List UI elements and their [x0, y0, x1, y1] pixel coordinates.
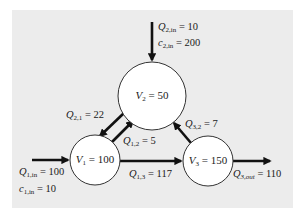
node-v1-label: V1 = 100	[76, 154, 114, 167]
conc-label-c1-in: c1,in = 10	[19, 184, 56, 196]
equals-sign: =	[89, 153, 95, 165]
conc-value: 10	[46, 183, 57, 194]
flow-label-q3-out: Q3,out = 110	[233, 169, 281, 181]
flow-label-q1-in: Q1,in = 100	[19, 167, 64, 179]
flow-symbol: Q	[129, 168, 137, 179]
flow-subscript: 1,3	[137, 173, 146, 181]
conc-subscript: 2,in	[163, 42, 174, 50]
node-subscript: 1	[83, 159, 87, 167]
conc-subscript: 1,in	[24, 188, 35, 196]
node-symbol: V	[76, 153, 83, 165]
flow-symbol: Q	[185, 118, 193, 129]
node-v3-label: V3 = 150	[189, 155, 227, 168]
node-volume-value: 150	[211, 154, 228, 166]
flow-value: 5	[151, 135, 156, 146]
equals-sign: =	[149, 89, 155, 101]
flow-label-q2-1: Q2,1 = 22	[66, 110, 104, 122]
flow-symbol: Q	[233, 168, 241, 179]
conc-value: 200	[185, 37, 201, 48]
flow-label-q1-2: Q1,2 = 5	[123, 136, 156, 148]
flow-subscript: 3,2	[193, 123, 202, 131]
flow-symbol: Q	[123, 135, 131, 146]
node-subscript: 2	[142, 95, 146, 103]
flow-symbol: Q	[19, 166, 27, 177]
conc-label-c2-in: c2,in = 200	[158, 38, 200, 50]
flow-value: 7	[213, 118, 218, 129]
flow-subscript: 3,out	[241, 173, 255, 181]
flow-label-q1-3: Q1,3 = 117	[129, 169, 172, 181]
flow-symbol: Q	[66, 109, 74, 120]
flow-subscript: 1,2	[131, 140, 140, 148]
node-volume-value: 100	[98, 153, 115, 165]
flow-value: 100	[48, 166, 64, 177]
flow-symbol: Q	[158, 21, 166, 32]
flow-subscript: 2,1	[74, 114, 83, 122]
flow-label-q3-2: Q3,2 = 7	[185, 119, 218, 131]
node-symbol: V	[136, 89, 143, 101]
flow-value: 22	[94, 109, 105, 120]
flow-label-q2-in: Q2,in = 10	[158, 22, 198, 34]
flow-value: 10	[187, 21, 198, 32]
equals-sign: =	[202, 154, 208, 166]
flow-subscript: 2,in	[166, 26, 177, 34]
node-volume-value: 50	[157, 89, 168, 101]
flow-value: 110	[266, 168, 281, 179]
flow-subscript: 1,in	[27, 171, 38, 179]
node-v2-label: V2 = 50	[136, 90, 169, 103]
node-symbol: V	[189, 154, 196, 166]
node-subscript: 3	[196, 160, 200, 168]
flow-value: 117	[157, 168, 172, 179]
